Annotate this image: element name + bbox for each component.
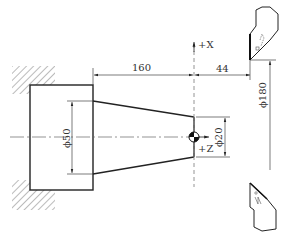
z-axis-label: +Z bbox=[198, 143, 213, 154]
svg-text:160: 160 bbox=[132, 62, 151, 73]
svg-text:ϕ180: ϕ180 bbox=[257, 82, 268, 108]
lower-tool-icon bbox=[250, 183, 276, 231]
taper-top-edge bbox=[93, 101, 194, 117]
turning-diagram: +X +Z 160 44 ϕ50 ϕ20 ϕ180 bbox=[0, 0, 287, 239]
x-axis-label: +X bbox=[198, 39, 214, 50]
program-origin-icon bbox=[189, 132, 199, 142]
svg-text:ϕ20: ϕ20 bbox=[213, 127, 224, 147]
svg-text:44: 44 bbox=[216, 63, 229, 74]
dimension-phi180: ϕ180 bbox=[250, 60, 276, 170]
taper-bottom-edge bbox=[93, 157, 194, 174]
svg-text:ϕ50: ϕ50 bbox=[61, 128, 72, 148]
upper-tool-icon bbox=[250, 7, 278, 60]
dimension-44: 44 bbox=[195, 60, 250, 80]
dimension-160: 160 bbox=[93, 62, 193, 85]
